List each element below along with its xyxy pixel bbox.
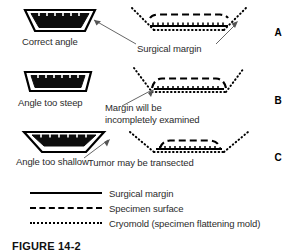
figure-container: A Correct angle	[0, 0, 288, 251]
annotation-a: Surgical margin	[137, 43, 202, 55]
legend-item-cryomold: Cryomold (specimen flattening mold)	[30, 216, 260, 230]
panel-letter-c: C	[274, 152, 282, 163]
legend-sample-dashed-line-icon	[30, 203, 102, 213]
legend-sample-solid-line-icon	[30, 188, 102, 198]
specimen-section-shallow-icon	[128, 128, 250, 160]
panel-letter-a: A	[274, 27, 282, 38]
panel-a: A Correct angle	[0, 0, 288, 62]
panel-b: B Angle too steep	[0, 62, 288, 124]
legend-label-surgical-margin: Surgical margin	[109, 188, 174, 199]
legend: Surgical margin Specimen surface Cryomol…	[0, 186, 288, 236]
cryomold-correct-angle-icon	[22, 8, 98, 34]
legend-item-specimen-surface: Specimen surface	[30, 201, 183, 215]
legend-label-specimen-surface: Specimen surface	[109, 203, 183, 214]
legend-sample-dotted-line-icon	[30, 218, 102, 228]
mold-label-b: Angle too steep	[18, 97, 83, 108]
annotation-c: Tumor may be transected	[88, 157, 194, 169]
annotation-b: Margin will be incompletely examined	[105, 102, 200, 125]
legend-label-cryomold: Cryomold (specimen flattening mold)	[109, 218, 260, 229]
figure-caption: FIGURE 14-2	[12, 240, 288, 251]
legend-item-surgical-margin: Surgical margin	[30, 186, 174, 200]
mold-label-a: Correct angle	[22, 36, 78, 47]
panel-c: C Angle too shallow	[0, 124, 288, 182]
cryomold-too-steep-icon	[22, 70, 94, 94]
annotation-b-line1: Margin will be	[105, 102, 200, 114]
panel-letter-b: B	[274, 95, 282, 106]
